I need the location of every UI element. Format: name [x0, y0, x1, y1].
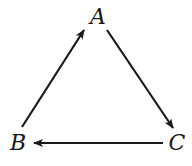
- cycle-diagram: A B C: [0, 0, 192, 166]
- edge-a-to-c-arrow: [107, 30, 173, 128]
- node-c-label: C: [169, 132, 186, 154]
- edge-b-to-a-arrow: [22, 30, 84, 127]
- node-b-label: B: [10, 132, 26, 154]
- node-a-label: A: [90, 6, 106, 28]
